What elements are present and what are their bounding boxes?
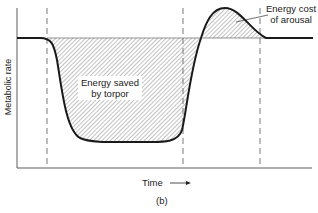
time-arrow-icon (186, 181, 191, 185)
energy-cost-region (201, 8, 266, 38)
energy-saved-line1: Energy saved (81, 77, 139, 88)
energy-saved-line2: by torpor (81, 88, 139, 99)
y-axis-label: Metabolic rate (3, 57, 13, 117)
x-axis-label: Time (142, 177, 163, 188)
energy-saved-label: Energy saved by torpor (78, 76, 142, 100)
energy-cost-label: Energy cost of arousal (266, 3, 316, 25)
panel-label: (b) (156, 195, 168, 206)
energy-cost-line2: of arousal (266, 14, 316, 25)
energy-cost-line1: Energy cost (266, 3, 316, 14)
